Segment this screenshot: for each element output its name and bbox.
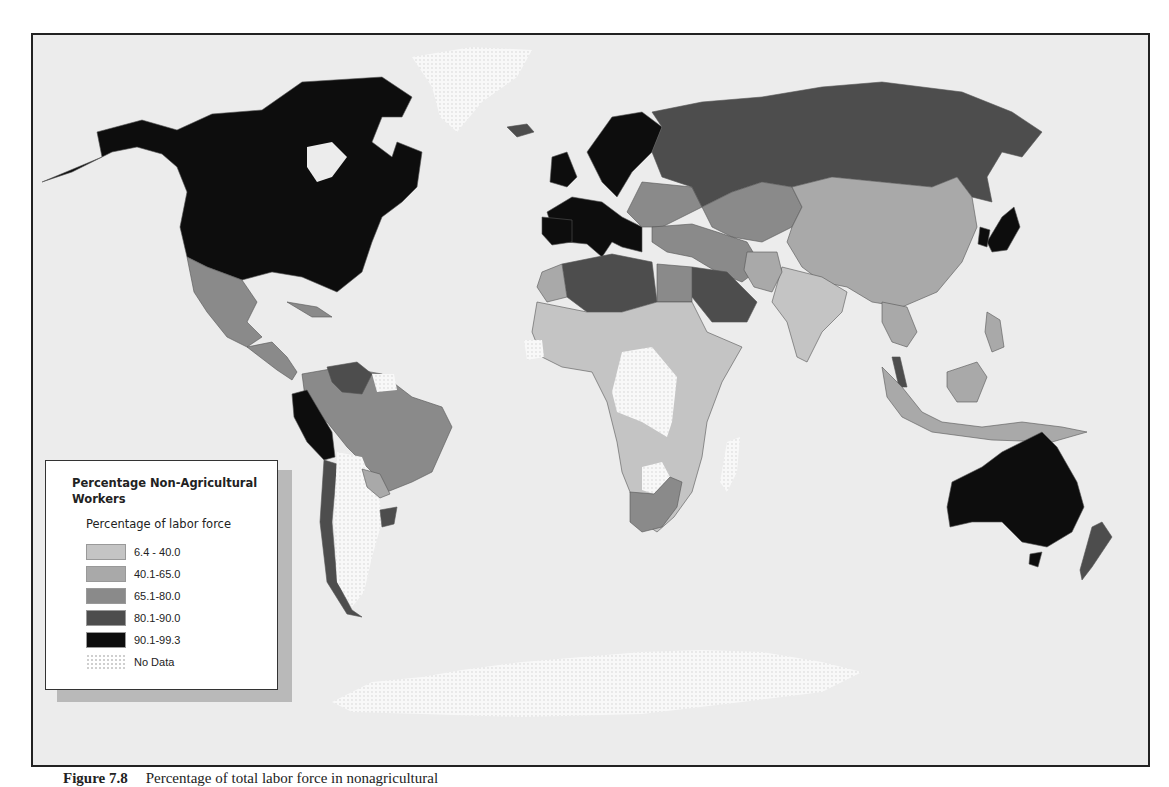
region-eastern-europe xyxy=(627,182,702,227)
region-central-america xyxy=(247,342,297,380)
region-greenland xyxy=(412,47,532,132)
region-southeast-asia xyxy=(882,302,917,347)
region-egypt xyxy=(657,264,692,302)
region-north-africa xyxy=(562,254,657,312)
figure-label: Figure 7.8 xyxy=(63,770,128,786)
region-uruguay xyxy=(380,507,397,527)
region-tasmania xyxy=(1029,552,1042,567)
region-west-africa-nodata xyxy=(524,340,544,360)
legend-item-class-2: 40.1-65.0 xyxy=(86,565,180,583)
legend-label: 90.1-99.3 xyxy=(134,634,180,646)
legend-item-no-data: No Data xyxy=(86,653,174,671)
region-madagascar xyxy=(720,437,740,492)
region-australia xyxy=(947,432,1084,547)
legend-label: 6.4 - 40.0 xyxy=(134,546,180,558)
legend-label: 65.1-80.0 xyxy=(134,590,180,602)
legend-title: Percentage Non-Agricultural Workers xyxy=(72,475,272,507)
region-antarctica xyxy=(332,650,862,717)
legend-item-class-3: 65.1-80.0 xyxy=(86,587,180,605)
region-borneo xyxy=(947,362,987,402)
legend-swatch xyxy=(86,588,126,604)
caption-text: Percentage of total labor force in nonag… xyxy=(146,770,438,786)
region-new-zealand xyxy=(1080,522,1112,580)
legend-swatch xyxy=(86,610,126,626)
legend-label: 80.1-90.0 xyxy=(134,612,180,624)
legend-item-class-5: 90.1-99.3 xyxy=(86,631,180,649)
legend-item-class-4: 80.1-90.0 xyxy=(86,609,180,627)
legend-label: 40.1-65.0 xyxy=(134,568,180,580)
region-japan xyxy=(987,207,1020,252)
legend-swatch xyxy=(86,632,126,648)
region-philippines xyxy=(985,312,1004,352)
legend-swatch xyxy=(86,566,126,582)
figure-caption: Figure 7.8Percentage of total labor forc… xyxy=(63,770,438,787)
region-uk xyxy=(550,152,577,187)
map-legend: Percentage Non-Agricultural Workers Perc… xyxy=(45,460,278,690)
legend-subtitle: Percentage of labor force xyxy=(86,517,231,531)
legend-swatch-dotted xyxy=(86,654,126,670)
legend-swatch xyxy=(86,544,126,560)
region-morocco-west xyxy=(537,264,567,302)
region-iceland xyxy=(507,124,534,137)
region-north-america xyxy=(42,77,422,292)
legend-item-class-1: 6.4 - 40.0 xyxy=(86,543,180,561)
legend-label: No Data xyxy=(134,656,174,668)
region-iberia xyxy=(542,217,572,245)
